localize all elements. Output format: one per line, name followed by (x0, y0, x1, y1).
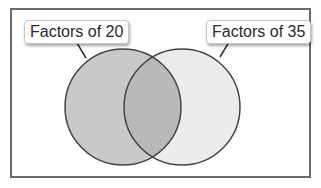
set-label-right-text: Factors of 35 (212, 23, 305, 40)
set-label-left-text: Factors of 20 (30, 23, 123, 40)
connector-right (220, 42, 229, 57)
connector-left (77, 43, 86, 58)
set-label-right: Factors of 35 (206, 20, 311, 44)
set-label-left: Factors of 20 (24, 20, 129, 44)
